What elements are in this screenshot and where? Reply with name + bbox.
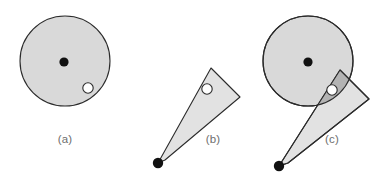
panel-c-hole: [327, 85, 337, 95]
figure-illustration: (a) (b) (c): [0, 0, 382, 178]
panel-b-apex-dot: [153, 158, 163, 168]
panel-b-hole: [202, 84, 212, 94]
panel-a-label: (a): [58, 133, 73, 145]
panel-a-center-dot: [59, 57, 68, 66]
figure-canvas: (a) (b) (c): [0, 0, 382, 178]
panel-a-hole: [83, 83, 93, 93]
panel-c-center-dot: [303, 57, 312, 66]
panel-b-label: (b): [206, 133, 221, 145]
panel-c-label: (c): [325, 133, 339, 145]
panel-c-apex-dot: [274, 161, 284, 171]
